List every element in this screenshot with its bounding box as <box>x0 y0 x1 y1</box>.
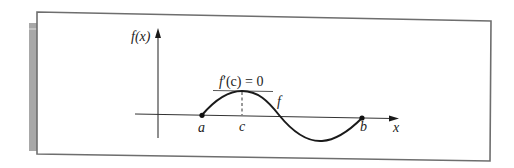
side-bar <box>29 23 37 151</box>
rolles-theorem-figure: f(x) f′(c) = 0 f a c b x <box>0 0 514 168</box>
point-a-label: a <box>198 120 205 135</box>
y-axis-label: f(x) <box>131 29 151 45</box>
derivative-label: f′(c) = 0 <box>219 74 263 90</box>
point-c-label: c <box>239 119 246 134</box>
figure-frame <box>37 12 491 161</box>
point-b-label: b <box>360 119 367 134</box>
x-axis-label: x <box>392 120 400 135</box>
point-a-dot <box>199 113 204 118</box>
